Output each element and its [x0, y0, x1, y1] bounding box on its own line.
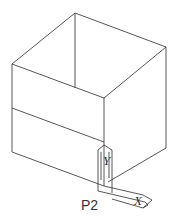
- y-axis-label: Y: [103, 153, 110, 169]
- bottom-right-edge: [108, 148, 166, 182]
- x-axis-label: X: [134, 193, 142, 209]
- top-face: [12, 13, 166, 98]
- point-label: P2: [81, 197, 98, 213]
- wireframe-box: [0, 0, 179, 223]
- middle-line: [12, 108, 104, 142]
- bottom-left-edge: [12, 152, 104, 186]
